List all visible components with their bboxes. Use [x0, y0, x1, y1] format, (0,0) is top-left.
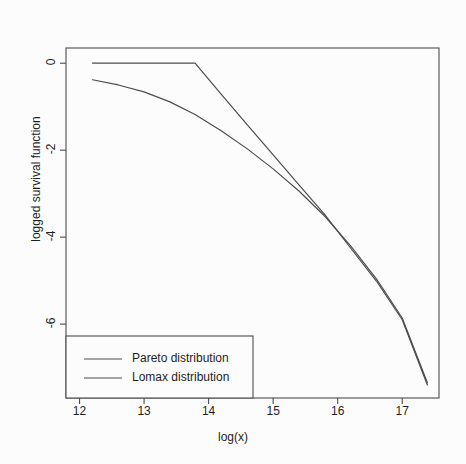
chart-figure: log-log plot log(x) logged survival func…	[0, 0, 466, 464]
legend-item-2: Lomax distribution	[132, 370, 229, 384]
y-tick-label-neg4: -4	[44, 221, 58, 251]
y-tick-label-0: 0	[44, 47, 58, 77]
x-tick-label-13: 13	[124, 404, 164, 418]
x-axis-label: log(x)	[0, 430, 466, 444]
log-log-plot-canvas	[0, 0, 466, 464]
y-axis-label: logged survival function	[29, 59, 43, 299]
x-tick-label-16: 16	[318, 404, 358, 418]
legend-item-1: Pareto distribution	[132, 351, 229, 365]
y-tick-label-neg2: -2	[44, 134, 58, 164]
y-tick-label-neg6: -6	[44, 308, 58, 338]
x-tick-label-14: 14	[189, 404, 229, 418]
x-tick-label-15: 15	[253, 404, 293, 418]
x-tick-label-12: 12	[60, 404, 100, 418]
legend-box	[66, 336, 253, 398]
x-tick-label-17: 17	[382, 404, 422, 418]
